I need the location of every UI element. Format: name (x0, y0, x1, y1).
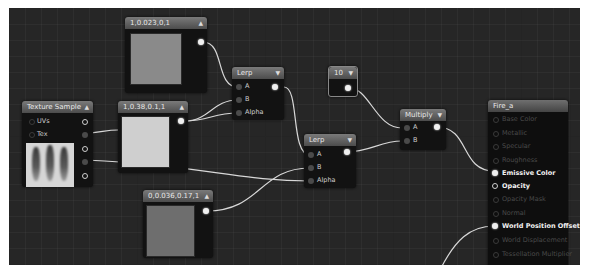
alpha-label: Alpha (245, 108, 263, 116)
a-label: A (413, 123, 417, 131)
multiply-node[interactable]: Multiply ▼ A B (400, 109, 446, 150)
node-header[interactable]: Fire_a (488, 100, 568, 112)
expand-icon[interactable]: ▼ (348, 67, 353, 79)
color-swatch (146, 205, 195, 257)
collapse-icon[interactable]: ▲ (198, 17, 203, 29)
b-label: B (245, 95, 249, 103)
uvs-label: UVs (37, 117, 50, 125)
tex-input-pin[interactable] (29, 132, 35, 138)
world-displacement-pin[interactable] (493, 238, 499, 244)
frame-left (0, 0, 9, 275)
a-label: A (245, 82, 249, 90)
base-color-pin[interactable] (493, 117, 499, 123)
r-output-pin[interactable] (82, 132, 88, 138)
lerp-node-1[interactable]: Lerp ▼ A B Alpha (232, 67, 284, 120)
metallic-label: Metallic (502, 129, 527, 137)
node-title: Lerp (237, 69, 252, 77)
b-output-pin[interactable] (82, 159, 88, 165)
node-title: 10 (334, 69, 343, 77)
normal-label: Normal (502, 209, 526, 217)
specular-label: Specular (502, 142, 530, 150)
node-header[interactable]: Lerp ▼ (232, 67, 284, 79)
b-label: B (317, 163, 321, 171)
base-color-label: Base Color (502, 115, 537, 123)
node-header[interactable]: 1,0.38,0.1,1 ▲ (118, 101, 188, 113)
a-input-pin[interactable] (404, 125, 410, 131)
alpha-label: Alpha (317, 176, 335, 184)
color-swatch (130, 33, 182, 85)
world-position-offset-pin[interactable] (492, 223, 498, 229)
a-input-pin[interactable] (236, 84, 242, 90)
specular-pin[interactable] (493, 144, 499, 150)
expand-icon[interactable]: ▼ (275, 67, 280, 79)
collapse-icon[interactable]: ▲ (179, 101, 184, 113)
frame-right (580, 0, 590, 275)
node-header[interactable]: Texture Sample ▲ (22, 101, 93, 113)
frame-top (0, 0, 590, 8)
output-pin[interactable] (198, 39, 204, 45)
constant-node-a[interactable]: 1,0.023,0,1 ▲ (125, 17, 207, 93)
color-swatch (121, 116, 170, 168)
opacity-pin[interactable] (492, 183, 498, 189)
tessellation-multiplier-label: Tessellation Multiplier (502, 250, 572, 258)
output-pin[interactable] (178, 118, 184, 124)
b-label: B (413, 136, 417, 144)
roughness-label: Roughness (502, 156, 537, 164)
opacity-mask-label: Opacity Mask (502, 195, 546, 203)
g-output-pin[interactable] (82, 146, 88, 152)
node-header[interactable]: 10 ▼ (329, 67, 357, 79)
node-title: 1,0.023,0,1 (130, 19, 170, 27)
texture-preview (26, 143, 74, 187)
a-label: A (317, 150, 321, 158)
node-header[interactable]: 1,0.023,0,1 ▲ (125, 17, 207, 29)
world-position-offset-label: World Position Offset (502, 222, 580, 230)
a-input-pin[interactable] (308, 152, 314, 158)
uvs-input-pin[interactable] (29, 119, 35, 125)
node-title: Fire_a (493, 102, 513, 110)
b-input-pin[interactable] (404, 138, 410, 144)
material-result-node[interactable]: Fire_a Base Color Metallic Specular Roug… (488, 100, 568, 275)
node-title: 1,0.38,0.1,1 (123, 103, 165, 111)
a-output-pin[interactable] (82, 173, 88, 179)
node-title: 0,0.036,0.17,1 (148, 192, 199, 200)
b-input-pin[interactable] (236, 97, 242, 103)
node-title: Multiply (405, 111, 433, 119)
texture-sample-node[interactable]: Texture Sample ▲ UVs Tex (22, 101, 93, 187)
emissive-color-pin[interactable] (492, 170, 498, 176)
opacity-mask-pin[interactable] (493, 197, 499, 203)
tex-label: Tex (37, 130, 48, 138)
expand-icon[interactable]: ▼ (437, 109, 442, 121)
output-pin[interactable] (203, 208, 209, 214)
node-header[interactable]: 0,0.036,0.17,1 ▲ (143, 190, 213, 202)
rgb-output-pin[interactable] (82, 119, 88, 125)
output-pin[interactable] (344, 149, 350, 155)
node-title: Texture Sample (27, 103, 81, 111)
metallic-pin[interactable] (493, 131, 499, 137)
collapse-icon[interactable]: ▲ (84, 101, 89, 113)
b-input-pin[interactable] (308, 165, 314, 171)
output-pin[interactable] (272, 84, 278, 90)
constant-node-b[interactable]: 1,0.38,0.1,1 ▲ (118, 101, 188, 173)
opacity-label: Opacity (502, 182, 530, 190)
alpha-input-pin[interactable] (236, 110, 242, 116)
node-header[interactable]: Lerp ▼ (304, 134, 356, 146)
alpha-input-pin[interactable] (308, 178, 314, 184)
tessellation-multiplier-pin[interactable] (493, 252, 499, 258)
lerp-node-2[interactable]: Lerp ▼ A B Alpha (304, 134, 356, 188)
node-header[interactable]: Multiply ▼ (400, 109, 446, 121)
scalar-node[interactable]: 10 ▼ (328, 66, 358, 97)
collapse-icon[interactable]: ▲ (204, 190, 209, 202)
output-pin[interactable] (345, 85, 351, 91)
normal-pin[interactable] (493, 211, 499, 217)
node-title: Lerp (309, 136, 324, 144)
world-displacement-label: World Displacement (502, 236, 567, 244)
output-pin[interactable] (434, 124, 440, 130)
roughness-pin[interactable] (493, 158, 499, 164)
expand-icon[interactable]: ▼ (347, 134, 352, 146)
constant-node-c[interactable]: 0,0.036,0.17,1 ▲ (143, 190, 213, 258)
frame-bottom (0, 265, 590, 275)
emissive-color-label: Emissive Color (502, 169, 555, 177)
